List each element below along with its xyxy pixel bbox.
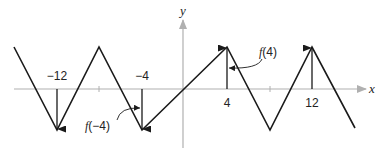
x-axis-label: x	[368, 81, 375, 96]
y-axis-label: y	[178, 3, 186, 18]
periodic-function-diagram: x y −12 −4 4 12 f(−4) f(4)	[0, 0, 385, 151]
f-4-label: f(4)	[259, 45, 277, 59]
tick-label-12: 12	[305, 96, 319, 110]
tick-label-4: 4	[224, 96, 231, 110]
tick-label-neg12: −12	[47, 69, 68, 83]
tick-label-neg4: −4	[135, 69, 149, 83]
f-neg4-label: f(−4)	[85, 119, 110, 133]
